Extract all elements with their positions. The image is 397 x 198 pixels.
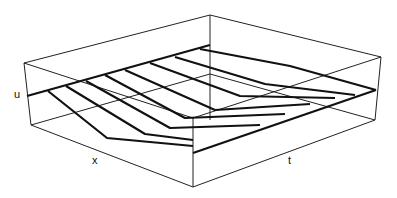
bounding-box <box>24 15 381 187</box>
profile-curve <box>200 49 376 90</box>
surface-plot <box>0 0 397 198</box>
profile-curves <box>48 49 376 146</box>
u-axis-label: u <box>14 88 20 100</box>
t-axis-label: t <box>288 154 291 166</box>
surface-edges <box>27 45 376 153</box>
x-axis-label: x <box>92 154 98 166</box>
